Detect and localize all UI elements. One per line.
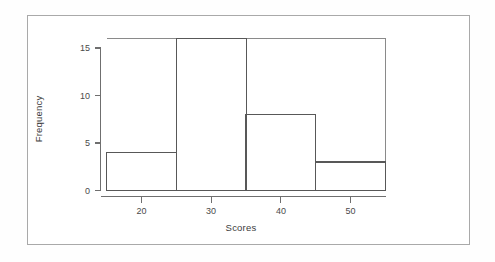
x-tick-label-40: 40 [276, 207, 286, 216]
x-tick-label-20: 20 [136, 207, 146, 216]
x-tick-label-30: 30 [206, 207, 216, 216]
y-tick-label-0: 0 [70, 186, 90, 195]
x-tick-label-50: 50 [346, 207, 356, 216]
bars-group [107, 39, 386, 191]
histogram-figure: 15 10 5 0 20 30 40 50 Frequency Scores [0, 0, 495, 262]
bar-bin-25-35 [176, 39, 246, 191]
y-tick-label-10: 10 [70, 91, 90, 100]
bar-bin-35-45 [246, 115, 316, 191]
y-axis [95, 48, 101, 191]
bar-bin-15-25 [107, 153, 177, 191]
y-tick-label-5: 5 [70, 139, 90, 148]
x-axis-title: Scores [226, 222, 257, 233]
y-axis-title: Frequency [33, 96, 44, 143]
bar-bin-45-55 [316, 162, 386, 191]
x-axis [101, 197, 386, 203]
y-tick-label-15: 15 [70, 44, 90, 53]
